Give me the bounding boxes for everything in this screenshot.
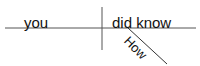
subject-word: you: [24, 15, 48, 30]
sentence-diagram: you did know How: [0, 0, 200, 66]
diagram-lines: [0, 0, 200, 66]
predicate-word: did know: [112, 15, 171, 30]
